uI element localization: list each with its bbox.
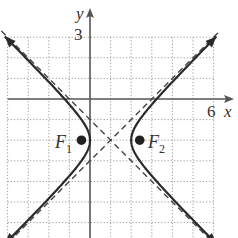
x-axis-label: x xyxy=(223,102,232,121)
hyperbola-diagram: y 3 6 x F1 F2 xyxy=(0,0,238,238)
focus-2-label: F2 xyxy=(147,132,165,156)
y-axis-label: y xyxy=(74,4,84,23)
focus-2-dot xyxy=(135,135,145,145)
graph-canvas: y 3 6 x F1 F2 xyxy=(0,0,238,238)
x-tick-label-6: 6 xyxy=(207,102,216,121)
focus-1-dot xyxy=(77,135,87,145)
left-branch xyxy=(5,36,90,238)
right-branch xyxy=(131,36,216,238)
y-tick-label-3: 3 xyxy=(74,25,83,44)
focus-1-label: F1 xyxy=(54,132,72,156)
coordinate-axes xyxy=(8,8,234,238)
